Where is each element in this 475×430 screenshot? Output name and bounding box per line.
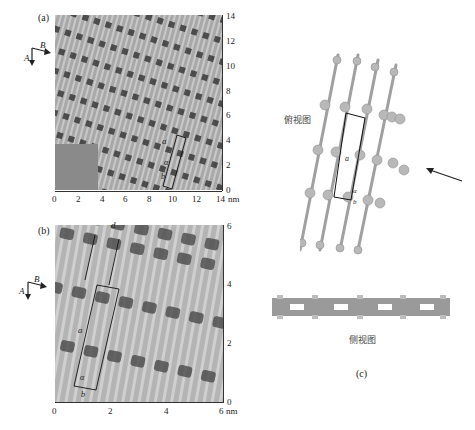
side-view-label: 侧视图	[349, 333, 376, 346]
cell-label-b: b	[81, 390, 85, 399]
molecular-side-view	[272, 295, 452, 319]
direction-b-label: B	[34, 274, 40, 284]
unit-a: nm	[228, 194, 240, 204]
panel-c-label: (c)	[356, 368, 367, 379]
x-axis-a	[55, 191, 222, 192]
direction-a-label: A	[24, 53, 30, 63]
panel-b-label: (b)	[38, 225, 50, 236]
cell-label-alpha: α	[353, 187, 357, 195]
stm-lattice-a	[55, 15, 222, 190]
direction-b-label: B	[40, 40, 46, 50]
y-axis-a	[222, 15, 223, 191]
cell-label-a: a	[162, 136, 167, 146]
panel-a-label: (a)	[38, 12, 49, 23]
x-axis-b	[55, 402, 223, 403]
cell-label-b: b	[161, 172, 165, 181]
cell-label-b: b	[353, 198, 357, 206]
cell-label-a: a	[345, 154, 349, 163]
stm-image-a	[55, 15, 222, 190]
inset-fft	[55, 144, 98, 190]
unit-b: nm	[226, 406, 238, 416]
cell-label-alpha: α	[164, 158, 168, 167]
cell-label-a: a	[78, 325, 83, 335]
y-axis-b	[223, 225, 224, 403]
cell-label-d: d	[111, 220, 116, 230]
molecular-top-view	[300, 45, 470, 260]
view-direction-arrow-icon	[424, 165, 464, 185]
cell-label-alpha: α	[80, 373, 84, 382]
direction-a-label: A	[19, 286, 25, 296]
